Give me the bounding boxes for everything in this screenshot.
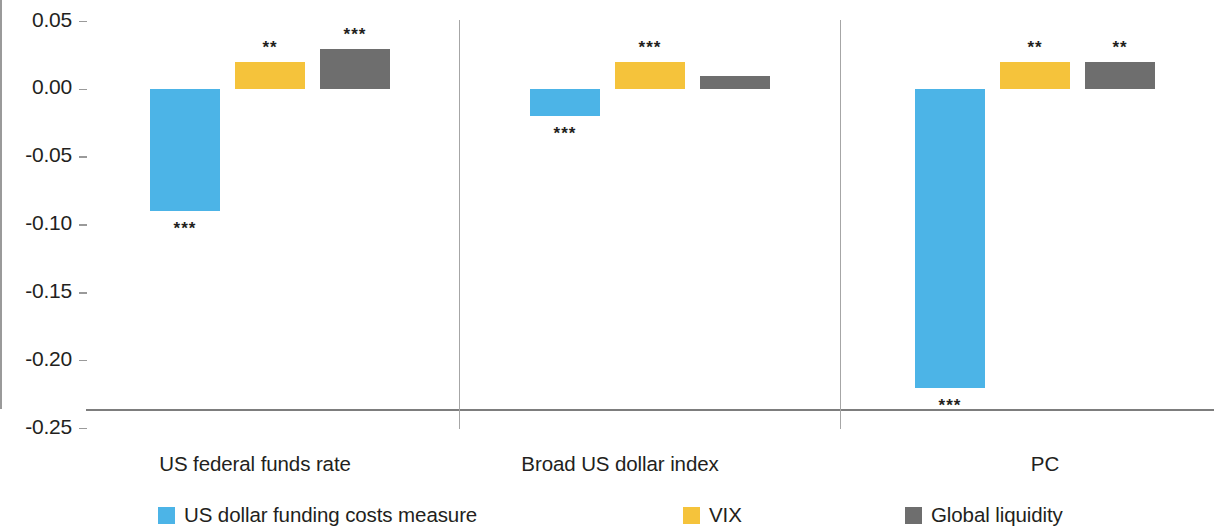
significance-marker: *** [530,124,600,144]
category-label-pc: PC [945,452,1145,476]
bar [1000,62,1070,89]
legend-item-global-liquidity: Global liquidity [905,503,1063,527]
legend-item-vix: VIX [683,503,742,527]
category-label-broad-us-dollar-index: Broad US dollar index [520,452,720,476]
significance-marker: ** [1085,38,1155,58]
significance-marker: ** [1000,38,1070,58]
bar [320,49,390,90]
y-axis-tick-label: 0.05 [0,8,72,32]
significance-marker: *** [915,396,985,416]
significance-marker: *** [320,25,390,45]
y-axis-tick [79,224,87,226]
legend-swatch-icon-gray [905,507,922,524]
legend-label: US dollar funding costs measure [184,503,477,527]
group-separator-1 [459,20,460,429]
y-axis-tick [79,360,87,362]
legend-item-us-dollar-funding-costs-measure: US dollar funding costs measure [158,503,477,527]
significance-marker: *** [615,38,685,58]
significance-marker: *** [150,219,220,239]
bar [235,62,305,89]
zero-baseline [86,409,1214,411]
y-axis-tick-label: -0.05 [0,143,72,167]
group-separator-2 [840,20,841,429]
bar-chart: 0.050.00-0.05-0.10-0.15-0.20-0.25 ******… [0,0,1218,530]
significance-marker: ** [235,38,305,58]
bar [915,89,985,387]
y-axis-tick-label: -0.10 [0,211,72,235]
y-axis-tick-label: -0.15 [0,279,72,303]
y-axis-tick-label: -0.25 [0,415,72,439]
legend-swatch-icon-blue [158,507,175,524]
y-axis-tick-label: 0.00 [0,75,72,99]
y-axis-tick [79,89,87,91]
y-axis-tick-label: -0.20 [0,347,72,371]
legend-label: VIX [709,503,742,527]
y-axis-tick [79,428,87,430]
bar [150,89,220,211]
bar [615,62,685,89]
y-axis-tick [79,156,87,158]
legend-swatch-icon-yellow [683,507,700,524]
y-axis-tick [79,21,87,23]
category-label-us-federal-funds-rate: US federal funds rate [155,452,355,476]
bar [700,76,770,90]
y-axis-tick [79,292,87,294]
legend-label: Global liquidity [931,503,1063,527]
bar [530,89,600,116]
bar [1085,62,1155,89]
